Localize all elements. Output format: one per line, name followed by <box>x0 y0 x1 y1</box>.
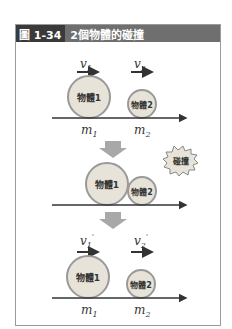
body-2-label: 物體2 <box>131 100 153 110</box>
panel-before: v1 v2 物體1 物體2 m1 m2 <box>52 57 186 139</box>
panel-after: v1' v2' 物體1 物體2 m1 m2 <box>52 233 186 319</box>
velocity-label-v2-prime: v2' <box>134 233 148 250</box>
mass-label-m2: m2 <box>134 123 150 139</box>
panel-collision: 碰撞 物體1 物體2 <box>52 146 198 205</box>
velocity-label-v2: v2 <box>134 57 146 73</box>
body-2-label: 物體2 <box>130 280 152 290</box>
mass-label-m2: m2 <box>134 303 150 319</box>
body-1-label: 物體1 <box>76 272 100 283</box>
body-2-label: 物體2 <box>131 187 153 197</box>
mass-label-m1: m1 <box>81 123 97 139</box>
mass-label-m1: m1 <box>81 303 97 319</box>
body-1-label: 物體1 <box>95 179 119 190</box>
collision-label: 碰撞 <box>173 156 189 166</box>
collision-diagram: v1 v2 物體1 物體2 m1 m2 碰撞 物體1 物體2 v1' v2' 物… <box>0 0 232 329</box>
body-1-label: 物體1 <box>77 92 101 103</box>
velocity-label-v1: v1 <box>80 57 92 73</box>
down-arrow-icon <box>99 141 127 158</box>
down-arrow-icon <box>99 212 127 229</box>
velocity-label-v1-prime: v1' <box>80 233 94 250</box>
